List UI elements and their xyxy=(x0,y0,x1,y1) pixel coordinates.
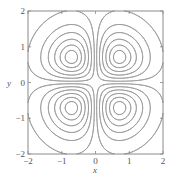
y-tick-label: 0 xyxy=(21,78,26,88)
contour-line xyxy=(60,45,131,120)
y-tick-label: −1 xyxy=(15,113,25,123)
y-tick-labels: −2−1012 xyxy=(15,6,25,159)
contour-plot: −2−1012 −2−1012 x y xyxy=(0,0,176,179)
y-axis-label: y xyxy=(6,78,11,88)
contour-line xyxy=(48,33,142,133)
contour-line xyxy=(41,24,151,140)
y-tick-label: 2 xyxy=(21,6,26,16)
x-axis-label: x xyxy=(92,165,97,175)
plot-frame xyxy=(28,11,163,154)
x-tick-label: −1 xyxy=(57,156,67,166)
contour-line xyxy=(28,11,163,154)
contour-lines xyxy=(28,11,163,154)
y-tick-label: −2 xyxy=(15,149,25,159)
axis-ticks xyxy=(28,11,163,154)
contour-line xyxy=(65,50,126,114)
y-tick-label: 1 xyxy=(21,42,26,52)
x-tick-label: 1 xyxy=(127,156,132,166)
x-tick-label: 2 xyxy=(161,156,166,166)
